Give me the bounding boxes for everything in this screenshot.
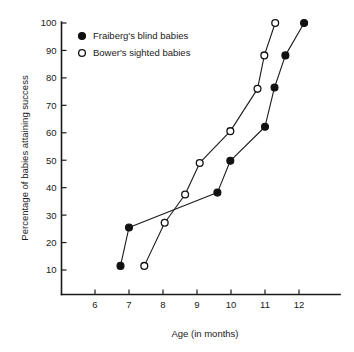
- x-tick-label: 11: [260, 299, 270, 310]
- series-line: [144, 23, 275, 266]
- x-axis-ticks: 6789101112: [92, 290, 304, 310]
- y-tick-label: 30: [46, 210, 57, 221]
- data-point: [161, 219, 168, 226]
- chart-legend: Fraiberg's blind babiesBower's sighted b…: [79, 30, 191, 58]
- x-tick-label: 8: [160, 299, 165, 310]
- data-point: [182, 191, 189, 198]
- data-point: [141, 262, 148, 269]
- data-point: [282, 52, 289, 59]
- y-axis-ticks: 102030405060708090100: [41, 17, 67, 275]
- y-tick-label: 20: [46, 237, 57, 248]
- y-tick-label: 10: [46, 264, 57, 275]
- data-point: [262, 123, 269, 130]
- legend-label: Fraiberg's blind babies: [93, 30, 189, 41]
- legend-marker: [79, 50, 86, 57]
- axis-group: [62, 22, 341, 295]
- y-tick-label: 50: [46, 155, 57, 166]
- chart-figure: 102030405060708090100 6789101112 Fraiber…: [0, 0, 354, 352]
- series-line: [121, 23, 305, 266]
- y-tick-label: 70: [46, 100, 57, 111]
- legend-label: Bower's sighted babies: [93, 47, 191, 58]
- x-tick-label: 9: [194, 299, 199, 310]
- x-tick-label: 7: [126, 299, 131, 310]
- data-point: [214, 189, 221, 196]
- data-point: [272, 20, 279, 27]
- legend-marker: [79, 33, 86, 40]
- y-axis-title: Percentage of babies attaining success: [19, 75, 30, 241]
- line-chart: 102030405060708090100 6789101112 Fraiber…: [0, 0, 354, 352]
- data-point: [227, 128, 234, 135]
- y-tick-label: 60: [46, 127, 57, 138]
- data-point: [271, 84, 278, 91]
- data-point: [254, 85, 261, 92]
- y-tick-label: 90: [46, 45, 57, 56]
- y-tick-label: 80: [46, 72, 57, 83]
- x-tick-label: 6: [92, 299, 97, 310]
- data-point: [196, 160, 203, 167]
- data-point: [117, 262, 124, 269]
- y-tick-label: 100: [41, 17, 57, 28]
- data-point: [261, 52, 268, 59]
- x-tick-label: 10: [226, 299, 237, 310]
- data-point: [227, 157, 234, 164]
- data-point: [126, 224, 133, 231]
- data-point: [301, 20, 308, 27]
- x-tick-label: 12: [294, 299, 305, 310]
- y-tick-label: 40: [46, 182, 57, 193]
- x-axis-title: Age (in months): [171, 328, 238, 339]
